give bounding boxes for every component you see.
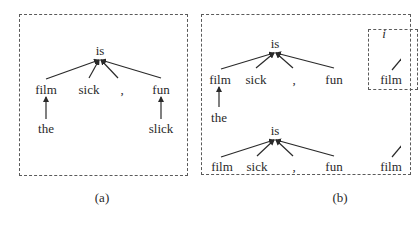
node-slick: slick: [149, 122, 174, 135]
node-the: the: [38, 122, 54, 135]
caption-a: (a): [95, 190, 109, 206]
node-sick: sick: [246, 73, 267, 86]
node-film: film: [35, 83, 57, 96]
node-comma: ,: [120, 83, 123, 96]
node-root-is: is: [271, 37, 280, 50]
node-fun: fun: [152, 83, 169, 96]
node-root-is: is: [96, 44, 105, 57]
caption-b: (b): [332, 190, 347, 206]
node-comma: ,: [292, 160, 295, 173]
node-root-partial: i: [382, 27, 386, 40]
node-sick: sick: [79, 83, 100, 96]
node-sick: sick: [247, 160, 268, 173]
node-film: film: [209, 73, 231, 86]
node-film: film: [211, 160, 233, 173]
node-root-is: is: [271, 124, 280, 137]
node-fun: fun: [325, 73, 342, 86]
node-comma: ,: [292, 73, 295, 86]
node-the: the: [211, 111, 227, 124]
node-film-partial: film: [380, 73, 402, 86]
node-fun: fun: [325, 160, 342, 173]
node-film-partial: film: [380, 160, 402, 173]
